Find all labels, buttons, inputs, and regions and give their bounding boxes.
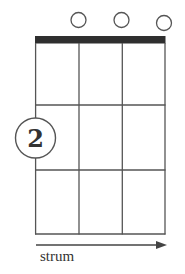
open-string-icon-4 (157, 16, 172, 31)
open-string-icon-2 (71, 13, 86, 28)
open-string-markers (71, 13, 172, 31)
strum-label: strum (40, 248, 75, 264)
nut (35, 36, 166, 44)
finger-number: 2 (27, 124, 44, 153)
finger-marker: 2 (16, 118, 56, 158)
chord-diagram: 2 strum (0, 0, 185, 274)
open-string-icon-3 (114, 13, 129, 28)
frets (35, 105, 166, 234)
